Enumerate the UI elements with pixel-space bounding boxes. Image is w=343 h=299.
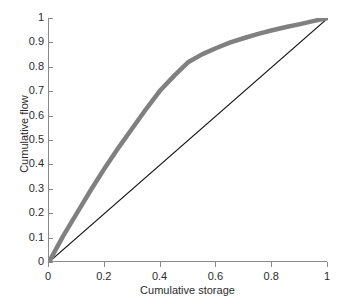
y-tick-label: 0.1 [2, 232, 48, 243]
x-axis-title: Cumulative storage [48, 284, 327, 296]
x-tick-label: 0 [28, 270, 68, 282]
y-tick-label: 0 [2, 256, 48, 267]
y-tick [48, 238, 53, 239]
y-tick [48, 67, 53, 68]
x-tick-label: 0.6 [195, 270, 235, 282]
x-tick [48, 262, 49, 267]
x-tick [104, 262, 105, 267]
y-tick [48, 189, 53, 190]
y-tick [48, 42, 53, 43]
y-axis-title: Cumulative flow [18, 54, 30, 214]
y-tick [48, 18, 53, 19]
y-tick [48, 213, 53, 214]
x-tick-label: 0.8 [251, 270, 291, 282]
plot-area [48, 18, 327, 262]
x-tick [327, 262, 328, 267]
x-tick-label: 0.4 [140, 270, 180, 282]
chart-figure: 00.10.20.30.40.50.60.70.80.91 00.20.40.6… [0, 0, 343, 299]
x-tick [215, 262, 216, 267]
y-tick [48, 116, 53, 117]
y-tick [48, 91, 53, 92]
y-tick [48, 164, 53, 165]
x-tick-label: 0.2 [84, 270, 124, 282]
one-to-one-line [49, 18, 328, 262]
x-tick-label: 1 [307, 270, 343, 282]
x-tick [271, 262, 272, 267]
plot-svg [49, 18, 328, 262]
x-tick [160, 262, 161, 267]
y-tick [48, 140, 53, 141]
y-tick-label: 1 [2, 12, 48, 23]
y-tick-label: 0.9 [2, 36, 48, 47]
